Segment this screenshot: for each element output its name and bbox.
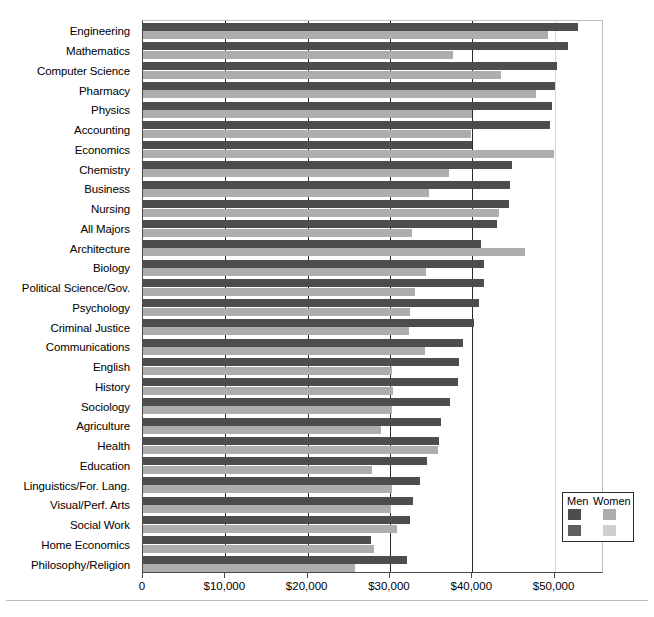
x-tick (307, 573, 308, 578)
bar-women (143, 347, 425, 355)
category-label: Political Science/Gov. (0, 282, 136, 294)
x-axis-ticks (142, 573, 603, 579)
category-label: Physics (0, 104, 136, 116)
bar-men (143, 181, 510, 189)
category-label: Economics (0, 144, 136, 156)
bar-men (143, 62, 557, 70)
bar-men (143, 141, 472, 149)
bar-women (143, 406, 392, 414)
bar-women (143, 505, 391, 513)
bar-men (143, 220, 497, 228)
bar-women (143, 90, 536, 98)
category-label: Accounting (0, 124, 136, 136)
gridline-50000 (555, 21, 556, 572)
bar-women (143, 268, 426, 276)
bar-men (143, 121, 550, 129)
bottom-divider-rule (6, 600, 648, 601)
bar-women (143, 130, 471, 138)
category-label: Psychology (0, 302, 136, 314)
bar-women (143, 31, 548, 39)
legend-header-men: Men (567, 495, 588, 507)
bar-women (143, 288, 415, 296)
category-label: Philosophy/Religion (0, 559, 136, 571)
bar-men (143, 556, 407, 564)
bar-men (143, 418, 441, 426)
x-tick (471, 573, 472, 578)
bar-women (143, 426, 381, 434)
category-label: Mathematics (0, 45, 136, 57)
x-tick (554, 573, 555, 578)
category-label: Visual/Perf. Arts (0, 499, 136, 511)
category-label: Pharmacy (0, 85, 136, 97)
bar-men (143, 42, 568, 50)
legend-swatch-women-pale (603, 525, 616, 536)
bar-men (143, 200, 509, 208)
bar-men (143, 240, 481, 248)
plot-inner (143, 21, 602, 572)
bar-men (143, 260, 484, 268)
bar-women (143, 367, 392, 375)
category-label: Education (0, 460, 136, 472)
bar-women (143, 71, 501, 79)
category-label: Agriculture (0, 420, 136, 432)
bar-women (143, 387, 393, 395)
bar-women (143, 150, 554, 158)
bar-women (143, 110, 472, 118)
x-tick-label: $30,000 (368, 580, 410, 592)
category-label: History (0, 381, 136, 393)
x-tick-label: $10,000 (204, 580, 246, 592)
bar-women (143, 564, 355, 572)
bar-women (143, 209, 499, 217)
category-label: Chemistry (0, 164, 136, 176)
bar-women (143, 169, 449, 177)
category-label: English (0, 361, 136, 373)
bar-men (143, 299, 479, 307)
category-label: Biology (0, 262, 136, 274)
bar-men (143, 536, 371, 544)
category-label: Home Economics (0, 539, 136, 551)
category-label: All Majors (0, 223, 136, 235)
legend-swatch-men-dark (568, 509, 581, 520)
legend-header-women: Women (593, 495, 631, 507)
bar-men (143, 358, 459, 366)
category-label: Health (0, 440, 136, 452)
plot-area (142, 20, 603, 573)
legend-swatch-women-light (603, 509, 616, 520)
category-label: Nursing (0, 203, 136, 215)
bar-women (143, 229, 412, 237)
bar-men (143, 161, 512, 169)
bar-women (143, 525, 397, 533)
x-axis-tick-labels: 0$10,000$20,000$30,000$40,000$50,000 (0, 580, 654, 598)
bar-women (143, 327, 409, 335)
category-label: Linguistics/For. Lang. (0, 480, 136, 492)
bar-men (143, 378, 458, 386)
bar-women (143, 308, 410, 316)
bar-men (143, 23, 578, 31)
bar-women (143, 446, 438, 454)
category-label: Sociology (0, 401, 136, 413)
category-label: Criminal Justice (0, 322, 136, 334)
chart-legend: Men Women (562, 492, 634, 542)
bar-women (143, 189, 429, 197)
x-tick (142, 573, 143, 578)
category-label: Architecture (0, 243, 136, 255)
bar-women (143, 466, 372, 474)
category-label: Business (0, 183, 136, 195)
x-tick (389, 573, 390, 578)
bar-men (143, 516, 410, 524)
bar-women (143, 545, 374, 553)
legend-swatch-men-mid (568, 525, 581, 536)
bar-women (143, 248, 525, 256)
bar-men (143, 319, 474, 327)
bar-men (143, 437, 439, 445)
salary-by-major-bar-chart: EngineeringMathematicsComputer SciencePh… (0, 0, 654, 617)
category-label: Communications (0, 341, 136, 353)
bar-women (143, 485, 392, 493)
bar-men (143, 398, 450, 406)
category-label: Social Work (0, 519, 136, 531)
x-tick-label: $20,000 (286, 580, 328, 592)
bar-women (143, 51, 453, 59)
bar-men (143, 82, 555, 90)
category-label: Computer Science (0, 65, 136, 77)
x-tick (224, 573, 225, 578)
